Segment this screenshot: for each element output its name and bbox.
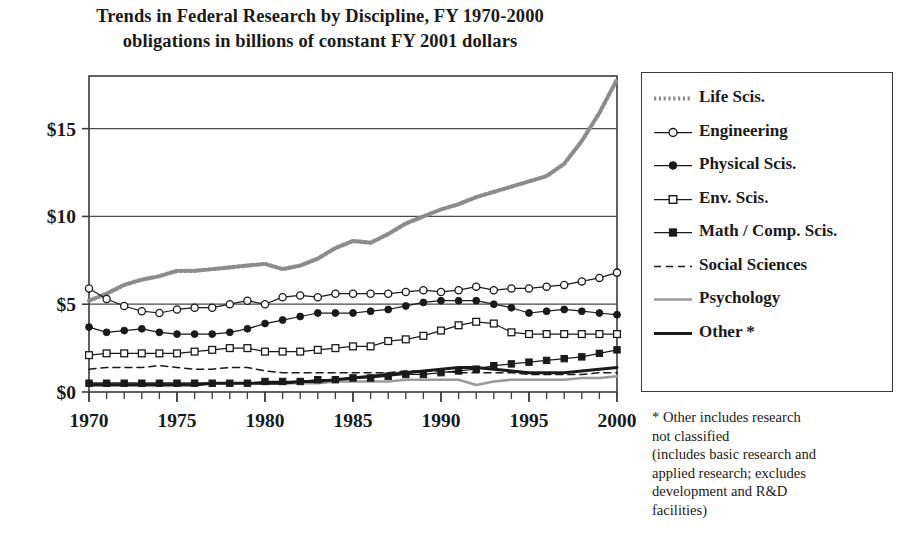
marker-filled-square (227, 380, 233, 386)
marker-filled-square (139, 380, 145, 386)
marker-open-circle (226, 301, 233, 308)
marker-filled-circle (508, 304, 515, 311)
marker-open-square (156, 350, 163, 357)
marker-open-circle (437, 288, 444, 295)
legend-label: Math / Comp. Scis. (699, 221, 837, 240)
footnote-line-3: (includes basic research and (652, 445, 900, 464)
marker-filled-circle (578, 308, 585, 315)
marker-filled-circle (297, 313, 304, 320)
marker-filled-circle (614, 311, 621, 318)
legend-marker-open-circle (669, 128, 677, 136)
legend-list: Life Scis.EngineeringPhysical Scis.Env. … (642, 73, 892, 342)
legend-label: Engineering (699, 121, 788, 140)
footnote-line-2: not classified (652, 427, 900, 446)
marker-filled-square (420, 371, 426, 377)
legend-label: Other * (699, 322, 755, 341)
marker-filled-circle (526, 310, 533, 317)
marker-filled-square (614, 347, 620, 353)
marker-open-circle (508, 285, 515, 292)
marker-open-square (614, 331, 621, 338)
x-tick-label: 1995 (510, 410, 549, 431)
marker-filled-circle (455, 297, 462, 304)
marker-open-square (279, 348, 286, 355)
legend-item[interactable]: Other * (652, 322, 892, 342)
marker-filled-square (86, 380, 92, 386)
x-tick-label: 1980 (246, 410, 285, 431)
marker-open-square (314, 346, 321, 353)
marker-filled-circle (226, 329, 233, 336)
marker-open-circle (138, 308, 145, 315)
marker-open-square (526, 331, 533, 338)
marker-filled-circle (438, 297, 445, 304)
marker-open-circle (209, 304, 216, 311)
marker-open-circle (297, 292, 304, 299)
marker-filled-circle (191, 331, 198, 338)
marker-open-square (226, 345, 233, 352)
marker-open-circle (473, 283, 480, 290)
y-tick-label: $5 (57, 294, 77, 315)
marker-open-circle (613, 269, 620, 276)
marker-filled-square (596, 350, 602, 356)
marker-open-circle (420, 287, 427, 294)
marker-open-circle (349, 290, 356, 297)
page-subtitle: obligations in billions of constant FY 2… (0, 29, 640, 54)
marker-open-circle (191, 304, 198, 311)
footnote-line-4: applied research; excludes (652, 464, 900, 483)
marker-open-square (578, 331, 585, 338)
marker-open-circle (103, 295, 110, 302)
marker-filled-circle (543, 308, 550, 315)
legend-item[interactable]: Social Sciences (652, 255, 892, 275)
marker-filled-square (103, 380, 109, 386)
y-tick-label: $15 (47, 119, 77, 140)
marker-open-circle (279, 294, 286, 301)
marker-filled-circle (332, 310, 339, 317)
marker-filled-square (455, 368, 461, 374)
legend-swatch-solid-thin (652, 191, 694, 208)
marker-open-circle (402, 288, 409, 295)
legend-item[interactable]: Math / Comp. Scis. (652, 221, 892, 241)
marker-filled-square (508, 361, 514, 367)
marker-filled-square (209, 380, 215, 386)
marker-open-circle (490, 287, 497, 294)
legend-item[interactable]: Env. Scis. (652, 188, 892, 208)
marker-open-square (244, 345, 251, 352)
marker-open-square (455, 322, 462, 329)
legend-item[interactable]: Life Scis. (652, 87, 892, 107)
legend-swatch-solid-gray (652, 291, 694, 308)
marker-open-square (209, 346, 216, 353)
marker-filled-circle (86, 324, 93, 331)
y-tick-label: $10 (47, 206, 76, 227)
page-title: Trends in Federal Research by Discipline… (0, 4, 640, 29)
legend-label: Social Sciences (699, 255, 807, 274)
legend-swatch-solid-thin (652, 124, 694, 141)
marker-open-square (86, 352, 93, 359)
marker-filled-circle (402, 303, 409, 310)
marker-filled-square (526, 359, 532, 365)
marker-filled-circle (156, 329, 163, 336)
marker-filled-circle (279, 317, 286, 324)
marker-open-circle (367, 290, 374, 297)
marker-filled-circle (262, 320, 269, 327)
footnote-line-6: facilities) (652, 501, 900, 520)
legend-item[interactable]: Engineering (652, 121, 892, 141)
marker-open-square (350, 343, 357, 350)
footnote-line-1: * Other includes research (652, 408, 900, 427)
marker-open-square (121, 350, 128, 357)
legend-label: Physical Scis. (699, 154, 796, 173)
x-tick-label: 1990 (422, 410, 461, 431)
legend-marker-filled-circle (669, 162, 677, 170)
legend-item[interactable]: Psychology (652, 288, 892, 308)
marker-filled-circle (350, 310, 357, 317)
legend-item[interactable]: Physical Scis. (652, 154, 892, 174)
marker-filled-square (315, 377, 321, 383)
marker-filled-circle (121, 327, 128, 334)
legend-swatch-solid-thick (652, 325, 694, 342)
marker-filled-square (297, 378, 303, 384)
line-chart: $0$5$10$151970197519801985199019952000 (0, 56, 640, 456)
marker-open-square (262, 348, 269, 355)
marker-open-square (561, 331, 568, 338)
marker-open-square (385, 338, 392, 345)
marker-filled-circle (174, 331, 181, 338)
marker-open-square (367, 343, 374, 350)
legend-swatch-dashed (652, 258, 694, 275)
